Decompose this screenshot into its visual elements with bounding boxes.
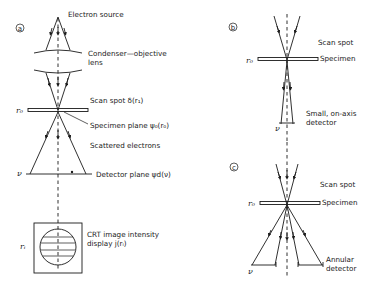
label-b-specimen: Specimen [320,54,355,63]
label-lens-2: lens [88,58,103,67]
label-lens-1: Condenser—objective [88,49,167,58]
label-nu: ν [17,169,22,178]
label-ri: rᵢ [20,242,26,251]
panel-b: b Scan spot r₀ Specimen Small, on-axis d… [229,14,357,144]
stem-schematic-diagram: a [0,0,375,290]
detector-plane [26,171,92,174]
label-c-nu: ν [248,267,253,276]
label-detector-plane: Detector plane ψd(ν) [96,170,171,179]
label-c-r0: r₀ [248,199,256,208]
label-b-nu: ν [275,124,280,133]
label-b-detector-1: Small, on-axis [306,109,357,118]
svg-text:a: a [18,25,22,33]
label-c-specimen: Specimen [322,198,357,207]
label-c-scan-spot: Scan spot [320,180,355,189]
panel-c: c Scan spot r₀ Specimen Annular [230,142,357,278]
svg-text:c: c [232,164,236,172]
label-scan-spot: Scan spot δ(r₁) [90,96,144,105]
label-b-scan-spot: Scan spot [318,38,353,47]
label-crt-1: CRT image intensity [87,230,160,239]
label-c-detector-1: Annular [326,255,354,264]
label-r0: r₀ [16,106,24,115]
panel-b-label: b [229,23,237,32]
specimen-bar-c [260,202,320,205]
panel-a-label: a [16,24,24,33]
label-specimen-plane: Specimen plane ψ₀(r₀) [90,121,169,130]
label-b-r0: r₀ [246,56,254,65]
label-scattered-electrons: Scattered electrons [90,141,160,150]
panel-c-label: c [230,163,238,172]
panel-a: a [16,10,171,273]
svg-text:b: b [231,24,236,32]
label-c-detector-2: detector [326,264,356,273]
label-electron-source: Electron source [68,10,124,19]
label-crt-2: display j(rᵢ) [87,239,127,248]
label-b-detector-2: detector [306,118,336,127]
